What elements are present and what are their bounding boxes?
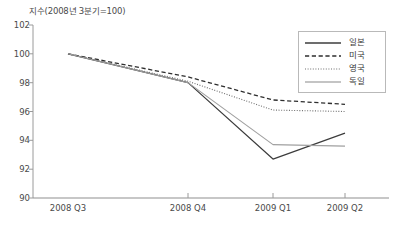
legend-item-germany: 독일 xyxy=(304,75,380,88)
legend-label: 독일 xyxy=(349,77,365,86)
line-chart: 지수(2008년 3분기=100) 102 100 98 96 94 92 90 xyxy=(0,0,397,235)
legend-item-usa: 미국 xyxy=(304,49,380,62)
legend-label: 일본 xyxy=(349,38,365,47)
legend-swatch-solid xyxy=(304,38,342,48)
y-tick-marks xyxy=(29,25,33,198)
x-tick-marks xyxy=(188,193,345,198)
legend-swatch-dashed xyxy=(304,51,342,61)
x-tick-label: 2008 Q4 xyxy=(170,203,206,213)
legend-swatch-dotted xyxy=(304,64,342,74)
x-tick-label: 2009 Q1 xyxy=(255,203,291,213)
legend-swatch-solid-gray xyxy=(304,77,342,87)
legend-item-uk: 영국 xyxy=(304,62,380,75)
legend-label: 미국 xyxy=(349,51,365,60)
legend-item-japan: 일본 xyxy=(304,36,380,49)
x-tick-label: 2008 Q3 xyxy=(50,203,86,213)
legend-label: 영국 xyxy=(349,64,365,73)
x-tick-label: 2009 Q2 xyxy=(327,203,363,213)
chart-legend: 일본 미국 영국 독일 xyxy=(298,31,386,93)
